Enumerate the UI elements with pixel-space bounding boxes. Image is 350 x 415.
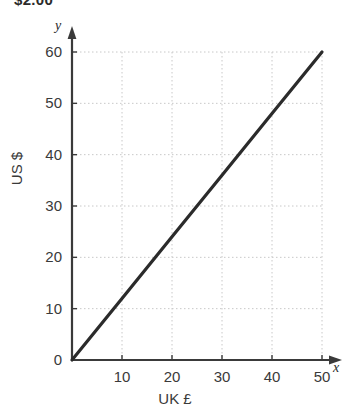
y-tick-label: 30 bbox=[28, 197, 62, 214]
x-tick-label: 30 bbox=[205, 368, 239, 385]
x-tick-label: 20 bbox=[155, 368, 189, 385]
y-axis-variable-label: y bbox=[55, 18, 61, 34]
x-tick-label: 10 bbox=[105, 368, 139, 385]
y-tick-label: 40 bbox=[28, 146, 62, 163]
y-tick-label: 60 bbox=[28, 43, 62, 60]
chart-canvas: $2.00 US $ UK £ y x 0102030405060 102030… bbox=[0, 0, 350, 415]
y-tick-label: 10 bbox=[28, 300, 62, 317]
y-axis-arrowhead bbox=[68, 26, 77, 39]
y-tick-label: 0 bbox=[28, 351, 62, 368]
x-axis-title: UK £ bbox=[0, 390, 350, 407]
y-tick-label: 20 bbox=[28, 248, 62, 265]
x-tick-label: 50 bbox=[305, 368, 339, 385]
x-tick-label: 40 bbox=[255, 368, 289, 385]
y-tick-label: 50 bbox=[28, 94, 62, 111]
y-axis-title: US $ bbox=[8, 139, 25, 199]
